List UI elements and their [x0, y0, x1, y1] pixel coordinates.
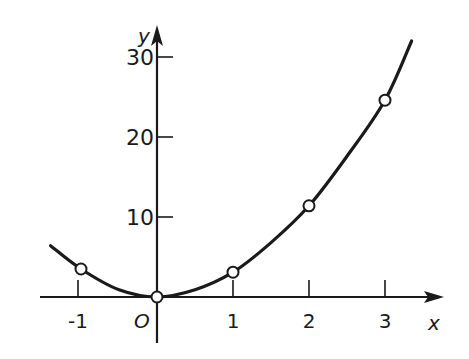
axes — [40, 25, 444, 343]
x-axis-label: x — [427, 311, 440, 335]
data-markers — [76, 95, 391, 303]
data-point-marker — [304, 200, 315, 211]
origin-label: O — [134, 309, 150, 333]
x-tick-label: -1 — [68, 309, 88, 333]
y-tick-label: 30 — [126, 45, 154, 70]
labels: x y O — [134, 24, 440, 335]
data-curve — [51, 41, 412, 297]
data-point-marker — [76, 264, 87, 275]
chart: -1123102030 x y O — [0, 0, 469, 359]
data-point-marker — [228, 267, 239, 278]
y-tick-label: 20 — [126, 125, 154, 150]
curve-path — [51, 41, 412, 297]
data-point-marker — [380, 95, 391, 106]
data-point-marker — [152, 292, 163, 303]
x-tick-label: 1 — [227, 309, 240, 333]
x-tick-label: 3 — [379, 309, 392, 333]
y-tick-label: 10 — [126, 205, 154, 230]
x-tick-label: 2 — [303, 309, 316, 333]
y-axis-label: y — [137, 24, 151, 48]
